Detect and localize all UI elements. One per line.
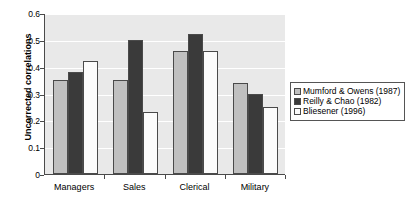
y-tick-label: 0.3 xyxy=(6,91,40,99)
bars-layer xyxy=(45,14,285,174)
legend-item[interactable]: Reilly & Chao (1982) xyxy=(294,97,400,107)
x-tick-mark xyxy=(285,175,286,179)
bar[interactable] xyxy=(233,83,248,174)
bar[interactable] xyxy=(203,51,218,174)
bar-group xyxy=(173,14,218,174)
bar[interactable] xyxy=(143,112,158,174)
legend-label: Reilly & Chao (1982) xyxy=(303,97,381,106)
bar-group xyxy=(113,14,158,174)
plot-area xyxy=(44,14,285,175)
bar[interactable] xyxy=(188,34,203,174)
y-axis-title: Uncorrected correlations xyxy=(23,12,33,162)
x-tick-label: Military xyxy=(215,182,295,193)
bar[interactable] xyxy=(248,94,263,175)
bar[interactable] xyxy=(53,80,68,174)
bar[interactable] xyxy=(68,72,83,174)
x-tick-mark xyxy=(225,175,226,179)
legend-item[interactable]: Mumford & Owens (1987) xyxy=(294,87,400,97)
y-tick-label: 0.6 xyxy=(6,10,40,18)
y-tick-label: 0.1 xyxy=(6,144,40,152)
bar[interactable] xyxy=(128,40,143,174)
y-tick-label: 0 xyxy=(6,171,40,179)
legend-swatch-icon xyxy=(294,108,301,115)
y-tick-label: 0.4 xyxy=(6,64,40,72)
bar-group xyxy=(53,14,98,174)
y-tick-label: 0.5 xyxy=(6,37,40,45)
legend-item[interactable]: Bliesener (1996) xyxy=(294,107,400,117)
bar[interactable] xyxy=(263,107,278,174)
bar[interactable] xyxy=(113,80,128,174)
y-tick-label: 0.2 xyxy=(6,117,40,125)
bar-chart-figure: Uncorrected correlations 00.10.20.30.40.… xyxy=(0,0,406,211)
x-tick-mark xyxy=(165,175,166,179)
y-tick-mark xyxy=(40,175,44,176)
legend-swatch-icon xyxy=(294,88,301,95)
legend-label: Mumford & Owens (1987) xyxy=(303,87,400,96)
legend-swatch-icon xyxy=(294,98,301,105)
legend-label: Bliesener (1996) xyxy=(303,107,365,116)
bar-group xyxy=(233,14,278,174)
chart-legend: Mumford & Owens (1987)Reilly & Chao (198… xyxy=(290,82,405,121)
x-tick-mark xyxy=(104,175,105,179)
bar[interactable] xyxy=(173,51,188,174)
bar[interactable] xyxy=(83,61,98,174)
